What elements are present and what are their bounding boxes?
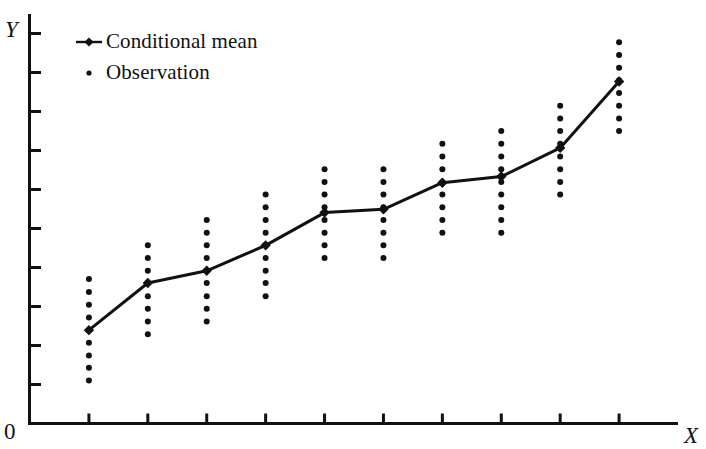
conditional-mean-marker — [378, 204, 388, 214]
observation-dot — [616, 128, 622, 134]
conditional-mean-line — [89, 82, 619, 331]
observation-dot — [86, 314, 92, 320]
observation-dot — [204, 242, 210, 248]
observation-dot — [204, 280, 210, 286]
observation-dot — [498, 230, 504, 236]
observation-dot — [204, 255, 210, 261]
observation-dot — [439, 154, 445, 160]
observation-dot — [616, 103, 622, 109]
observation-dot — [616, 90, 622, 96]
observation-dot — [263, 293, 269, 299]
observation-dot — [498, 166, 504, 172]
observation-dot — [439, 192, 445, 198]
observation-dot — [204, 319, 210, 325]
observation-dot — [557, 103, 563, 109]
observation-dot — [145, 319, 151, 325]
observation-dot — [380, 217, 386, 223]
observation-dot — [616, 39, 622, 45]
observation-dot — [322, 192, 328, 198]
observation-dot — [145, 306, 151, 312]
observation-dot — [498, 141, 504, 147]
observation-dot — [439, 230, 445, 236]
observation-dot — [145, 293, 151, 299]
observation-dot — [86, 340, 92, 346]
observation-dot — [616, 65, 622, 71]
figure-conditional-mean-scatter: Conditional mean Observation Y X 0 — [0, 0, 706, 449]
observation-dot — [322, 179, 328, 185]
legend: Conditional mean Observation — [72, 26, 372, 88]
x-axis-label: X — [684, 424, 698, 447]
observation-dot — [498, 204, 504, 210]
observation-dot — [263, 280, 269, 286]
observation-dot — [322, 255, 328, 261]
observation-dot — [145, 255, 151, 261]
y-axis-ticks — [30, 34, 41, 385]
observation-dot — [86, 302, 92, 308]
legend-label-observation: Observation — [106, 62, 210, 83]
observation-dot — [380, 179, 386, 185]
observation-dot — [557, 128, 563, 134]
observation-dot — [380, 166, 386, 172]
observation-dot — [557, 166, 563, 172]
legend-item-conditional-mean: Conditional mean — [72, 26, 372, 57]
observation-dot — [86, 365, 92, 371]
observation-dot — [86, 276, 92, 282]
observation-dot — [439, 204, 445, 210]
observation-dot — [557, 179, 563, 185]
observation-dot — [86, 378, 92, 384]
conditional-mean-marker-icon — [72, 36, 106, 48]
observation-dot — [263, 217, 269, 223]
observation-dot — [557, 154, 563, 160]
observation-dot — [263, 268, 269, 274]
observation-dot — [439, 166, 445, 172]
observation-marker-icon — [72, 67, 106, 79]
observation-dot — [322, 242, 328, 248]
observation-dot — [616, 115, 622, 121]
origin-label: 0 — [4, 420, 16, 443]
observation-dot — [439, 217, 445, 223]
observation-dot — [145, 331, 151, 337]
observation-dot — [380, 230, 386, 236]
conditional-mean-markers — [84, 76, 625, 335]
legend-item-observation: Observation — [72, 57, 372, 88]
observation-dot — [498, 192, 504, 198]
observation-dot — [204, 217, 210, 223]
observation-dot — [380, 192, 386, 198]
observation-dot — [439, 141, 445, 147]
observation-dot — [322, 217, 328, 223]
observation-dot — [322, 230, 328, 236]
conditional-mean-marker — [496, 171, 506, 181]
observation-dot — [86, 289, 92, 295]
observation-dot — [322, 166, 328, 172]
observation-dot — [263, 230, 269, 236]
observation-dot — [86, 353, 92, 359]
observation-dot — [204, 230, 210, 236]
legend-label-conditional-mean: Conditional mean — [106, 31, 258, 52]
observation-dot — [557, 192, 563, 198]
observation-dot — [145, 242, 151, 248]
observation-dot — [380, 255, 386, 261]
observation-dot — [557, 115, 563, 121]
observation-dot — [204, 293, 210, 299]
observation-dot — [263, 204, 269, 210]
observation-dot — [498, 154, 504, 160]
observation-dot — [204, 306, 210, 312]
y-axis-label: Y — [5, 18, 18, 41]
observation-dot — [263, 255, 269, 261]
observation-dot — [380, 242, 386, 248]
conditional-mean-marker — [437, 178, 447, 188]
observation-dot — [616, 52, 622, 58]
observation-dot — [145, 268, 151, 274]
observation-dot — [498, 128, 504, 134]
conditional-mean-marker — [202, 266, 212, 276]
observation-dot — [263, 192, 269, 198]
observation-dot — [498, 217, 504, 223]
